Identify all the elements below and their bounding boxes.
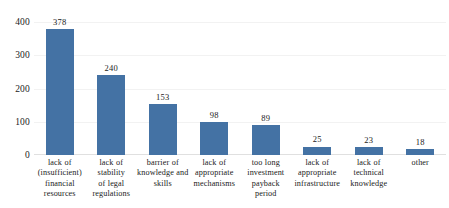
y-tick-400: 400 (0, 17, 30, 27)
x-label-0-line-0: lack of (34, 158, 86, 168)
bar-slot-2: 153 (137, 22, 189, 155)
bar-slot-4: 89 (240, 22, 292, 155)
x-label-7: other (395, 158, 447, 168)
x-label-4-line-2: payback period (240, 179, 292, 200)
y-axis: 400 300 200 100 0 (0, 0, 30, 208)
bar-value-0: 378 (53, 18, 66, 27)
bar-3[interactable] (200, 122, 228, 155)
x-label-6-line-1: technical (343, 168, 395, 178)
bar-value-4: 89 (261, 114, 270, 123)
bar-slot-6: 23 (343, 22, 395, 155)
bar-7[interactable] (406, 149, 434, 155)
x-label-7-line-0: other (395, 158, 447, 168)
bar-6[interactable] (355, 147, 383, 155)
y-tick-0: 0 (0, 150, 30, 160)
x-label-3-line-1: appropriate (189, 168, 241, 178)
bar-series: 378 240 153 98 89 25 23 18 (34, 22, 446, 155)
y-tick-200: 200 (0, 84, 30, 94)
x-label-1-line-2: regulations (86, 189, 138, 199)
bar-2[interactable] (149, 104, 177, 155)
x-label-1-line-0: lack of stability (86, 158, 138, 179)
x-label-6-line-0: lack of (343, 158, 395, 168)
x-label-0: lack of (insufficient) financial resourc… (34, 158, 86, 200)
x-label-5: lack of appropriate infrastructure (292, 158, 344, 189)
bar-slot-5: 25 (292, 22, 344, 155)
x-axis-category-labels: lack of (insufficient) financial resourc… (34, 158, 446, 208)
x-label-0-line-1: (insufficient) (34, 168, 86, 178)
bar-slot-1: 240 (86, 22, 138, 155)
y-tick-100: 100 (0, 117, 30, 127)
x-label-4-line-1: investment (240, 168, 292, 178)
bar-5[interactable] (303, 147, 331, 155)
x-label-5-line-0: lack of (292, 158, 344, 168)
x-label-3-line-2: mechanisms (189, 179, 241, 189)
x-label-1: lack of stability of legal regulations (86, 158, 138, 200)
bar-chart: 400 300 200 100 0 378 240 153 98 89 25 (0, 0, 449, 208)
bar-0[interactable] (46, 29, 74, 155)
bar-slot-3: 98 (189, 22, 241, 155)
x-label-6-line-2: knowledge (343, 179, 395, 189)
y-tick-300: 300 (0, 50, 30, 60)
bar-value-1: 240 (105, 64, 118, 73)
x-label-1-line-1: of legal (86, 179, 138, 189)
x-label-2-line-0: barrier of (137, 158, 189, 168)
x-label-4-line-0: too long (240, 158, 292, 168)
bar-value-5: 25 (313, 135, 322, 144)
bar-slot-7: 18 (395, 22, 447, 155)
x-label-2-line-1: knowledge and (137, 168, 189, 178)
x-label-5-line-2: infrastructure (292, 179, 344, 189)
x-label-0-line-2: financial (34, 179, 86, 189)
x-label-3-line-0: lack of (189, 158, 241, 168)
x-label-6: lack of technical knowledge (343, 158, 395, 189)
bar-value-3: 98 (210, 111, 219, 120)
bar-1[interactable] (97, 75, 125, 155)
x-label-2-line-2: skills (137, 179, 189, 189)
bar-value-7: 18 (416, 138, 425, 147)
bar-4[interactable] (252, 125, 280, 155)
bar-slot-0: 378 (34, 22, 86, 155)
x-label-3: lack of appropriate mechanisms (189, 158, 241, 189)
x-label-4: too long investment payback period (240, 158, 292, 200)
x-label-2: barrier of knowledge and skills (137, 158, 189, 189)
bar-value-6: 23 (364, 136, 373, 145)
bar-value-2: 153 (156, 93, 169, 102)
x-label-0-line-3: resources (34, 189, 86, 199)
x-label-5-line-1: appropriate (292, 168, 344, 178)
